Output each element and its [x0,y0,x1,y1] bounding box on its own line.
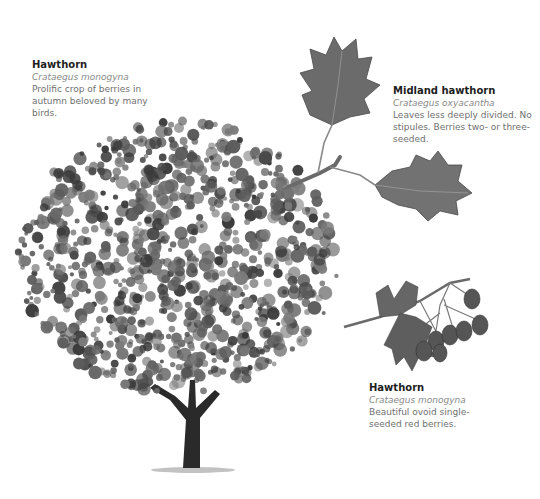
foliage-clump [170,241,176,247]
foliage-clump [78,268,86,276]
foliage-clump [204,158,209,163]
foliage-clump [181,367,193,379]
foliage-clump [232,237,239,244]
foliage-clump [170,207,182,219]
foliage-clump [233,244,244,255]
caption-description: Beautiful ovoid single-seeded red berrie… [369,406,489,430]
foliage-clump [156,374,163,381]
foliage-clump [204,314,216,326]
foliage-clump [127,316,136,325]
foliage-clump [219,270,225,276]
foliage-clump [54,215,59,220]
foliage-clump [212,358,217,363]
foliage-clump [113,279,118,284]
foliage-clump [308,301,322,315]
foliage-clump [32,232,44,244]
foliage-clump [222,213,231,222]
tree-trunk [150,380,220,468]
midland-hawthorn-leaves-illustration [280,25,480,225]
foliage-clump [243,284,249,290]
foliage-clump [250,279,259,288]
foliage-clump [193,296,203,306]
foliage-clump [138,237,145,244]
foliage-clump [75,219,80,224]
foliage-clump [245,233,255,243]
foliage-clump [23,223,33,233]
foliage-clump [116,244,129,257]
foliage-clump [134,250,139,255]
foliage-clump [117,152,122,157]
foliage-clump [20,265,25,270]
foliage-clump [147,269,152,274]
foliage-clump [185,249,194,258]
foliage-clump [34,220,39,225]
foliage-clump [106,340,113,347]
foliage-clump [122,278,127,283]
foliage-clump [249,255,257,263]
foliage-clump [264,253,274,263]
foliage-clump [273,269,282,278]
foliage-clump [161,308,167,314]
foliage-clump [240,366,244,370]
foliage-clump [334,274,338,278]
foliage-clump [88,355,98,365]
foliage-clump [101,306,108,313]
foliage-clump [180,137,188,145]
foliage-clump [128,363,133,368]
foliage-clump [61,204,74,217]
foliage-clump [240,292,245,297]
berry-leaf-1 [376,281,418,317]
foliage-clump [105,268,112,275]
foliage-clump [58,235,68,245]
foliage-clump [27,291,32,296]
foliage-clump [152,336,162,346]
foliage-clump [244,203,249,208]
foliage-clump [253,205,267,219]
foliage-clump [319,247,331,259]
foliage-clump [107,136,113,142]
foliage-clump [275,335,281,341]
foliage-clump [71,279,83,291]
foliage-clump [96,316,103,323]
foliage-clump [234,271,248,285]
foliage-clump [132,294,142,304]
caption-title: Hawthorn [32,58,162,71]
foliage-clump [185,307,198,320]
foliage-clump [316,295,323,302]
foliage-clump [158,163,167,172]
foliage-clump [159,154,167,162]
foliage-clump [70,251,79,260]
foliage-clump [172,191,182,201]
foliage-clump [72,290,79,297]
foliage-clump [212,273,219,280]
foliage-clump [168,122,174,128]
foliage-clump [195,220,208,233]
foliage-clump [30,251,36,257]
foliage-clump [322,311,326,315]
foliage-clump [200,341,209,350]
foliage-clump [116,158,122,164]
foliage-clump [149,136,162,149]
foliage-clump [260,229,271,240]
foliage-clump [123,136,127,140]
leaf-lower [375,151,472,221]
foliage-clump [190,165,196,171]
foliage-clump [200,387,207,394]
foliage-clump [58,207,62,211]
foliage-clump [219,346,232,359]
foliage-clump [114,258,120,264]
foliage-clump [233,230,239,236]
foliage-clump [267,307,280,320]
foliage-clump [251,266,258,273]
foliage-clump [297,274,310,287]
foliage-clump [111,368,115,372]
foliage-clump [232,203,240,211]
foliage-clump [115,296,125,306]
foliage-clump [93,276,106,289]
foliage-clump [113,194,118,199]
foliage-clump [187,129,199,141]
foliage-clump [135,197,141,203]
foliage-clump [114,337,119,342]
foliage-clump [40,220,45,225]
foliage-clump [110,177,115,182]
